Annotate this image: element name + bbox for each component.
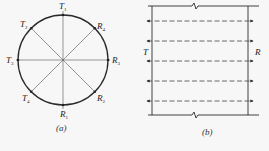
label-r4: R4: [96, 21, 106, 32]
label-t4: T4: [22, 93, 30, 104]
ray-paths: [147, 21, 253, 101]
caption-a: (a): [56, 123, 67, 133]
bottom-boundary: [148, 112, 259, 118]
label-r2: R2: [96, 93, 106, 104]
panel-a: T1 T2 R4 T3 R3 T4 R2 R1 (a): [6, 1, 121, 133]
label-r3: R3: [111, 55, 121, 66]
label-r1: R1: [59, 109, 69, 120]
label-r: R: [254, 47, 261, 57]
top-boundary: [148, 3, 259, 9]
label-t1: T1: [59, 1, 67, 12]
caption-b: (b): [202, 127, 213, 137]
label-t: T: [143, 47, 149, 57]
figure-canvas: T1 T2 R4 T3 R3 T4 R2 R1 (a) T R (b): [0, 0, 269, 151]
panel-b: T R (b): [143, 3, 261, 137]
label-t2: T2: [20, 19, 28, 30]
label-t3: T3: [6, 55, 14, 66]
